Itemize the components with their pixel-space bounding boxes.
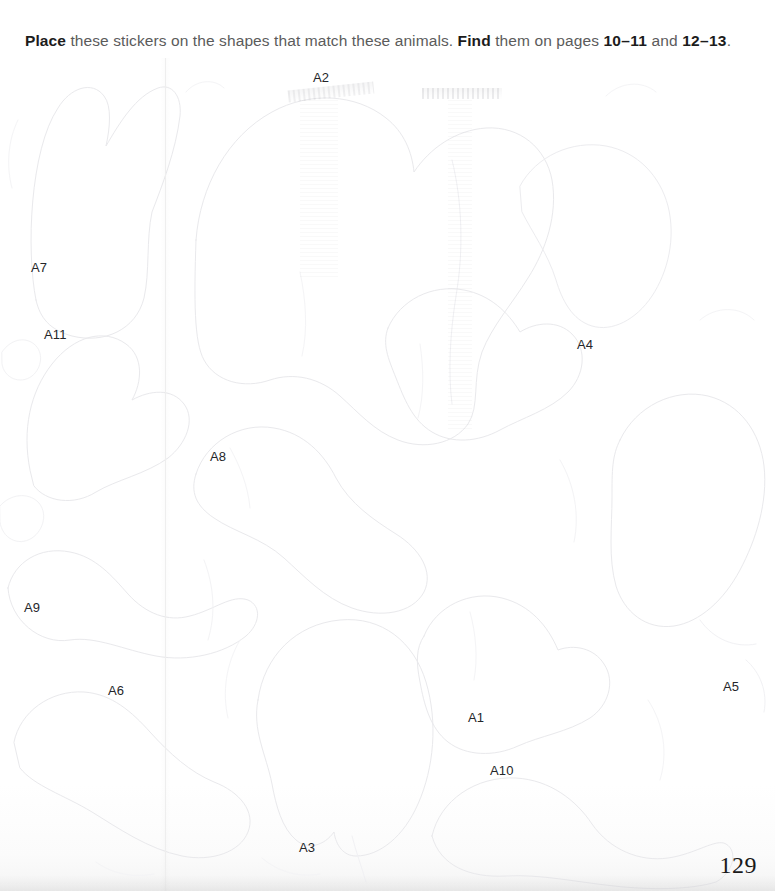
instruction-body-3: and (647, 32, 682, 49)
sticker-label-a1: A1 (468, 710, 484, 725)
page-reference-second: 12–13 (682, 32, 727, 49)
sticker-label-a11: A11 (44, 327, 67, 342)
instruction-body-1: these stickers on the shapes that match … (66, 32, 458, 49)
instruction-bold-find: Find (458, 32, 491, 49)
sticker-label-a5: A5 (723, 679, 739, 694)
instruction-body-4: . (727, 32, 731, 49)
sticker-label-a2: A2 (313, 70, 329, 85)
sticker-sheet-page: Place these stickers on the shapes that … (0, 0, 775, 891)
sticker-label-a10: A10 (490, 763, 514, 778)
sticker-label-a7: A7 (31, 260, 47, 275)
instruction-body-2: them on pages (491, 32, 604, 49)
page-number: 129 (720, 852, 758, 879)
instruction-text: Place these stickers on the shapes that … (25, 31, 731, 50)
ink-texture-left (300, 100, 338, 280)
sticker-label-a4: A4 (577, 337, 593, 352)
ink-texture-right (448, 100, 472, 430)
paper-texture (0, 0, 775, 891)
sticker-label-a9: A9 (24, 600, 40, 615)
sticker-outlines-layer (0, 0, 775, 891)
sticker-label-a6: A6 (108, 683, 124, 698)
ink-smudge-right (422, 88, 502, 99)
page-reference-first: 10–11 (603, 32, 647, 49)
scan-bottom-shadow (0, 875, 775, 891)
page-gutter-line (165, 58, 166, 891)
instruction-bold-place: Place (25, 32, 66, 49)
sticker-label-a8: A8 (210, 449, 226, 464)
sticker-label-a3: A3 (299, 840, 315, 855)
